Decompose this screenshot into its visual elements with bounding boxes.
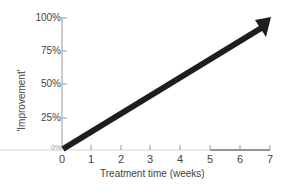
y-tick-label: 100% bbox=[35, 12, 61, 23]
y-axis-label: 'Improvement' bbox=[16, 66, 27, 136]
y-tick-label: 50% bbox=[41, 78, 61, 89]
x-axis-label: Treatment time (weeks) bbox=[100, 168, 205, 179]
x-tick-label: 3 bbox=[143, 153, 157, 165]
x-tick-label: 0 bbox=[55, 153, 69, 165]
y-tick-label: 75% bbox=[41, 45, 61, 56]
y-tick-label: 0% bbox=[51, 144, 61, 151]
x-tick-label: 6 bbox=[233, 153, 247, 165]
x-tick-label: 7 bbox=[263, 153, 277, 165]
x-tick-label: 1 bbox=[84, 153, 98, 165]
x-tick-label: 4 bbox=[173, 153, 187, 165]
x-tick-label: 2 bbox=[114, 153, 128, 165]
y-tick-label: 25% bbox=[41, 112, 61, 123]
x-tick-label: 5 bbox=[203, 153, 217, 165]
trend-arrow-shaft bbox=[63, 27, 263, 149]
